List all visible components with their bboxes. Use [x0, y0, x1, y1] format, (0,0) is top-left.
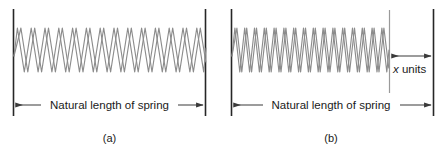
spring-diagram-svg: Natural length of spring (a) x units N: [0, 0, 444, 154]
panel-b-units-word: units: [399, 63, 427, 75]
panel-a-spring: [14, 28, 206, 72]
spring-figure: Natural length of spring (a) x units N: [0, 0, 444, 154]
panel-b: x units Natural length of spring (b): [232, 9, 434, 144]
panel-a: Natural length of spring (a): [14, 9, 207, 144]
panel-a-caption: (a): [103, 132, 116, 144]
panel-a-dimension-label: Natural length of spring: [50, 99, 169, 111]
panel-b-spring: [232, 28, 389, 72]
panel-b-dimension-label: Natural length of spring: [272, 99, 391, 111]
panel-b-x-units-label: x units: [392, 63, 426, 75]
panel-b-caption: (b): [324, 132, 337, 144]
